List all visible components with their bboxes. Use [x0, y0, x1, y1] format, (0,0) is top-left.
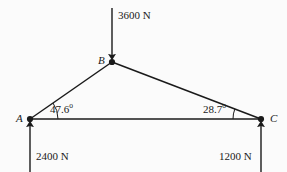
degree-symbol-a: o — [69, 101, 73, 110]
node-label-c: C — [270, 113, 277, 124]
force-label-reaction-a: 2400 N — [36, 151, 69, 162]
joint-c — [258, 116, 264, 122]
diagram-canvas — [0, 0, 287, 172]
angle-value-a: 47.6 — [50, 103, 69, 115]
angle-arc-c — [233, 109, 235, 119]
angle-label-a: 47.6o — [50, 104, 73, 115]
degree-symbol-c: o — [222, 101, 226, 110]
node-label-a: A — [16, 113, 23, 124]
truss-diagram: A B C 3600 N 2400 N 1200 N 47.6o 28.7o — [0, 0, 287, 172]
node-label-b: B — [98, 55, 105, 66]
member-bc — [112, 62, 261, 119]
angle-value-c: 28.7 — [203, 103, 222, 115]
force-arrows — [30, 8, 261, 172]
joint-a — [27, 116, 33, 122]
joint-b — [109, 59, 115, 65]
angle-label-c: 28.7o — [203, 104, 226, 115]
force-label-load-b: 3600 N — [118, 10, 151, 21]
force-label-reaction-c: 1200 N — [219, 151, 252, 162]
